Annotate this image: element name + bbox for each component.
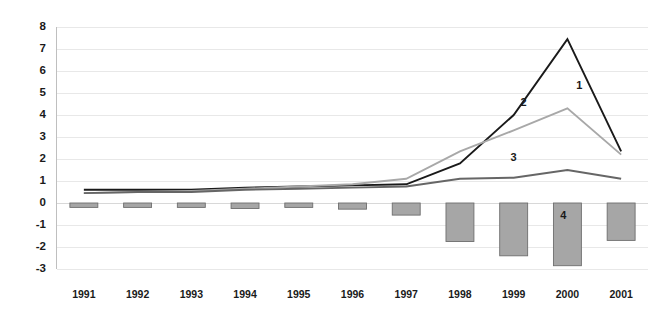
x-axis-labels-group: 1991199219931994199519961997199819992000… — [72, 288, 633, 300]
series-label-4: 4 — [560, 209, 567, 221]
line-series-2 — [84, 108, 621, 193]
series-label-2: 2 — [521, 96, 527, 108]
bars-group — [70, 203, 635, 266]
x-axis-tick-label: 1999 — [502, 288, 526, 300]
lines-group — [84, 39, 621, 193]
bar — [500, 203, 528, 256]
x-axis-tick-label: 1991 — [72, 288, 96, 300]
y-axis-tick-label: -3 — [36, 262, 46, 274]
y-axis-tick-label: 8 — [40, 20, 47, 32]
x-axis-tick-label: 1995 — [287, 288, 311, 300]
y-axis-tick-label: 1 — [40, 174, 47, 186]
series-labels-group: 1234 — [511, 79, 583, 221]
y-axis-tick-label: 4 — [40, 108, 47, 120]
bar — [339, 203, 367, 209]
x-axis-tick-label: 1992 — [126, 288, 150, 300]
bar — [285, 203, 313, 207]
x-axis-tick-label: 1993 — [180, 288, 204, 300]
line-series-1 — [84, 39, 621, 190]
y-axis-tick-label: 7 — [40, 42, 46, 54]
y-axis-labels-group: 876543210-1-2-3 — [36, 20, 47, 274]
y-axis-tick-label: -2 — [36, 240, 46, 252]
chart-svg: 876543210-1-2-3 199119921993199419951996… — [0, 0, 655, 335]
bar — [553, 203, 581, 266]
y-axis-tick-label: 2 — [40, 152, 46, 164]
x-axis-tick-label: 2000 — [556, 288, 580, 300]
x-axis-tick-label: 2001 — [609, 288, 633, 300]
bar — [70, 203, 98, 207]
y-axis-tick-label: 0 — [40, 196, 46, 208]
bar — [177, 203, 205, 207]
bar — [392, 203, 420, 215]
x-axis-tick-label: 1996 — [341, 288, 365, 300]
chart-container: 876543210-1-2-3 199119921993199419951996… — [0, 0, 655, 335]
x-axis-tick-label: 1997 — [395, 288, 419, 300]
bar — [124, 203, 152, 207]
y-axis-tick-label: -1 — [36, 218, 47, 230]
bar — [231, 203, 259, 209]
bar — [446, 203, 474, 242]
x-axis-tick-label: 1998 — [448, 288, 472, 300]
series-label-3: 3 — [511, 151, 517, 163]
y-axis-tick-label: 5 — [40, 86, 47, 98]
series-label-1: 1 — [576, 79, 582, 91]
y-axis-tick-label: 3 — [40, 130, 46, 142]
bar — [607, 203, 635, 240]
x-axis-tick-label: 1994 — [233, 288, 257, 300]
y-axis-tick-label: 6 — [40, 64, 46, 76]
